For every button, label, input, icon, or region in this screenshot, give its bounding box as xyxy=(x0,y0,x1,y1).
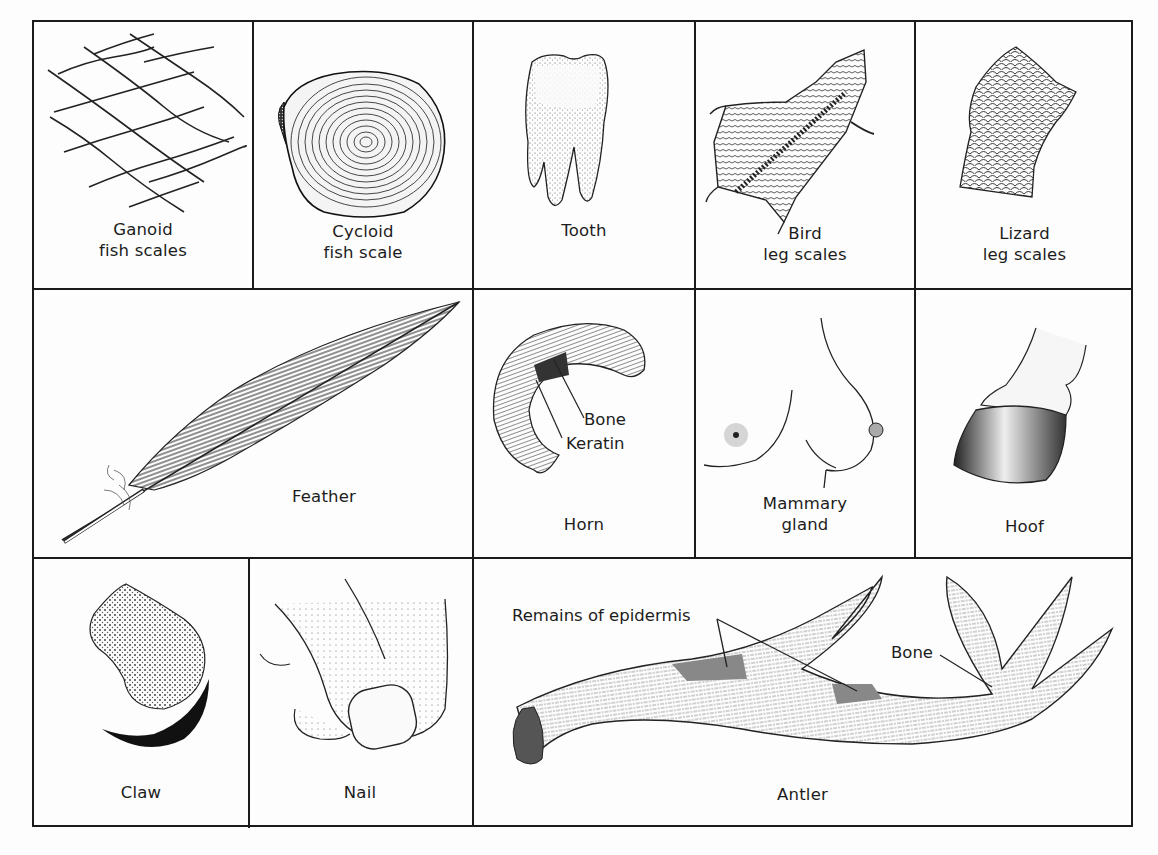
panel-horn: Bone Keratin Horn xyxy=(474,290,694,556)
panel-ganoid: Ganoid fish scales xyxy=(34,22,252,288)
panel-label: Tooth xyxy=(474,220,694,241)
label-line: Mammary xyxy=(696,493,914,514)
panel-label: Horn xyxy=(474,514,694,535)
label-line: Lizard xyxy=(916,223,1133,244)
label-line: Ganoid xyxy=(34,219,252,240)
panel-claw: Claw xyxy=(34,559,248,827)
tooth-illustration xyxy=(474,22,694,288)
panel-feather: Feather xyxy=(34,290,472,556)
callout-keratin: Keratin xyxy=(566,434,625,453)
label-line: Claw xyxy=(34,782,248,803)
label-line: Hoof xyxy=(916,516,1133,537)
panel-label: Lizard leg scales xyxy=(916,223,1133,265)
panel-label: Mammary gland xyxy=(696,493,914,535)
panel-label: Antler xyxy=(472,784,1133,805)
callout-remains-of-epidermis: Remains of epidermis xyxy=(512,606,691,625)
panel-label: Cycloid fish scale xyxy=(254,221,472,263)
label-line: Cycloid xyxy=(254,221,472,242)
panel-lizard: Lizard leg scales xyxy=(916,22,1133,288)
panel-nail: Nail xyxy=(250,559,470,827)
label-line: fish scale xyxy=(254,242,472,263)
panel-label: Hoof xyxy=(916,516,1133,537)
panel-label: Claw xyxy=(34,782,248,803)
label-line: Horn xyxy=(474,514,694,535)
label-line: fish scales xyxy=(34,240,252,261)
label-line: leg scales xyxy=(696,244,914,265)
label-line: Nail xyxy=(250,782,470,803)
panel-label: Nail xyxy=(250,782,470,803)
callout-bone: Bone xyxy=(584,410,626,429)
label-line: leg scales xyxy=(916,244,1133,265)
feather-illustration xyxy=(34,290,472,556)
label-line: Tooth xyxy=(474,220,694,241)
panel-antler: Remains of epidermis Bone Antler xyxy=(472,559,1133,827)
label-line: Antler xyxy=(472,784,1133,805)
panel-label: Ganoid fish scales xyxy=(34,219,252,261)
callout-bone: Bone xyxy=(891,643,933,662)
panel-label: Feather xyxy=(254,486,394,507)
panel-tooth: Tooth xyxy=(474,22,694,288)
panel-label: Bird leg scales xyxy=(696,223,914,265)
panel-cycloid: Cycloid fish scale xyxy=(254,22,472,288)
panel-mammary: Mammary gland xyxy=(696,290,914,556)
label-line: gland xyxy=(696,514,914,535)
label-line: Bird xyxy=(696,223,914,244)
panel-hoof: Hoof xyxy=(916,290,1133,556)
panel-bird: Bird leg scales xyxy=(696,22,914,288)
label-line: Feather xyxy=(254,486,394,507)
